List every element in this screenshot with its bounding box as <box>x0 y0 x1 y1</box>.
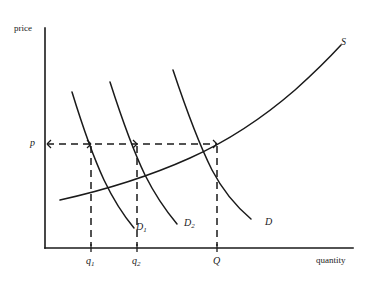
demand-curve-1-label: D1 <box>136 222 147 232</box>
demand-curve-1-label-sub: 1 <box>143 226 147 234</box>
demand-curve-2 <box>110 82 177 224</box>
demand-curve-2-label: D2 <box>184 218 195 228</box>
x-tick-label-q2-sub: 2 <box>137 260 141 268</box>
demand-curve-2-label-sub: 2 <box>191 222 195 230</box>
y-axis-label: price <box>14 24 32 33</box>
x-tick-label-Q: Q <box>213 256 220 266</box>
x-axis-label: quantity <box>316 256 346 265</box>
price-level-label: p <box>30 138 35 148</box>
demand-curve-3-label: D <box>265 217 272 227</box>
x-tick-label-q1: q1 <box>86 256 95 266</box>
demand-curve-1 <box>72 92 134 228</box>
supply-curve-label: S <box>341 37 346 47</box>
chart-canvas <box>0 0 375 281</box>
axis-lines <box>45 28 353 248</box>
supply-demand-figure: price quantity p S D1 D2 D q1 q2 Q <box>0 0 375 281</box>
x-tick-label-q2: q2 <box>132 256 141 266</box>
quantity-reference-lines <box>91 146 217 246</box>
x-tick-label-q1-sub: 1 <box>91 260 95 268</box>
